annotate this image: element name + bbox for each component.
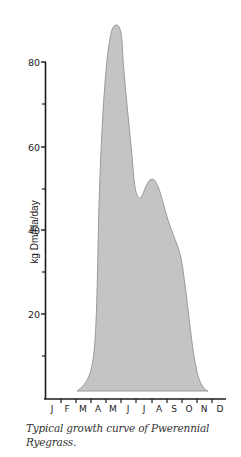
y-tick-label: 60 <box>28 142 40 153</box>
x-month-label: F <box>64 404 69 414</box>
x-month-label: J <box>50 404 54 414</box>
x-month-label: J <box>126 404 130 414</box>
x-month-label: M <box>79 404 87 414</box>
chart-caption: Typical growth curve of Pwerennial Ryegr… <box>26 421 226 449</box>
x-ticks: JFMAMJJASOND <box>50 399 224 414</box>
x-month-label: S <box>171 404 177 414</box>
x-month-label: D <box>217 404 224 414</box>
x-month-label: J <box>142 404 146 414</box>
x-month-label: A <box>156 404 163 414</box>
x-month-label: O <box>185 404 192 414</box>
y-tick-label: 20 <box>28 309 40 320</box>
x-month-label: A <box>95 404 102 414</box>
growth-area <box>77 25 208 391</box>
x-month-label: N <box>201 404 208 414</box>
caption-line-1: Typical growth curve of Pwerennial <box>26 421 226 435</box>
growth-curve-chart: 80604020 JFMAMJJASOND kg Dm/Ha/day <box>0 0 241 457</box>
y-axis-label: kg Dm/Ha/day <box>29 200 40 263</box>
y-tick-label: 80 <box>28 57 40 68</box>
x-month-label: M <box>109 404 117 414</box>
caption-line-2: Ryegrass. <box>26 435 226 449</box>
